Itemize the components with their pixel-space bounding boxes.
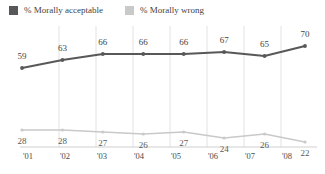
series-markers (20, 44, 307, 144)
data-point-marker[interactable] (182, 130, 185, 133)
x-axis-tick-label: '07 (245, 151, 255, 161)
data-point-label: 59 (18, 51, 27, 61)
data-point-marker[interactable] (263, 54, 267, 58)
data-point-label: 28 (58, 136, 67, 146)
data-point-label: 28 (18, 136, 27, 146)
data-point-label: 65 (260, 39, 269, 49)
data-point-marker[interactable] (20, 66, 24, 70)
data-point-marker[interactable] (303, 140, 306, 143)
x-axis-tick-label: '08 (282, 151, 292, 161)
data-point-label: 66 (98, 37, 107, 47)
gridlines (59, 26, 281, 147)
series-lines (22, 46, 305, 142)
data-point-label: 63 (58, 43, 67, 53)
data-point-marker[interactable] (182, 52, 186, 56)
data-point-marker[interactable] (61, 128, 64, 131)
legend-swatch-square-icon (125, 6, 134, 15)
x-axis-tick-label: '05 (171, 151, 181, 161)
legend-entry-morally-acceptable[interactable]: % Morally acceptable (9, 5, 103, 15)
x-axis-tick-label: '04 (134, 151, 144, 161)
data-point-marker[interactable] (101, 130, 104, 133)
legend-label-morally-acceptable: % Morally acceptable (24, 5, 103, 15)
data-point-marker[interactable] (303, 44, 307, 48)
x-axis-tick-label: '06 (208, 151, 218, 161)
data-point-label: 26 (139, 140, 148, 150)
data-point-label: 67 (220, 35, 229, 45)
data-point-marker[interactable] (223, 136, 226, 139)
data-point-label: 66 (179, 37, 188, 47)
data-point-label: 26 (260, 140, 269, 150)
chart-container: % Morally acceptable % Morally wrong 596… (0, 0, 325, 174)
legend-swatch-square-icon (9, 6, 18, 15)
chart-legend: % Morally acceptable % Morally wrong (0, 0, 325, 20)
data-point-marker[interactable] (263, 132, 266, 135)
data-point-label: 66 (139, 37, 148, 47)
x-axis-tick-label: '02 (60, 151, 70, 161)
x-axis-tick-labels: '01'02'03'04'05'06'07'08 (0, 151, 325, 171)
x-axis-tick-label: '01 (23, 151, 33, 161)
data-point-marker[interactable] (101, 52, 105, 56)
data-point-label: 27 (179, 138, 188, 148)
data-point-marker[interactable] (222, 50, 226, 54)
data-point-label: 27 (98, 138, 107, 148)
data-point-marker[interactable] (142, 132, 145, 135)
data-point-marker[interactable] (20, 128, 23, 131)
data-point-label: 70 (301, 29, 310, 39)
data-point-marker[interactable] (141, 52, 145, 56)
legend-label-morally-wrong: % Morally wrong (140, 5, 204, 15)
x-axis-tick-label: '03 (97, 151, 107, 161)
data-point-marker[interactable] (61, 58, 65, 62)
legend-entry-morally-wrong[interactable]: % Morally wrong (125, 5, 204, 15)
